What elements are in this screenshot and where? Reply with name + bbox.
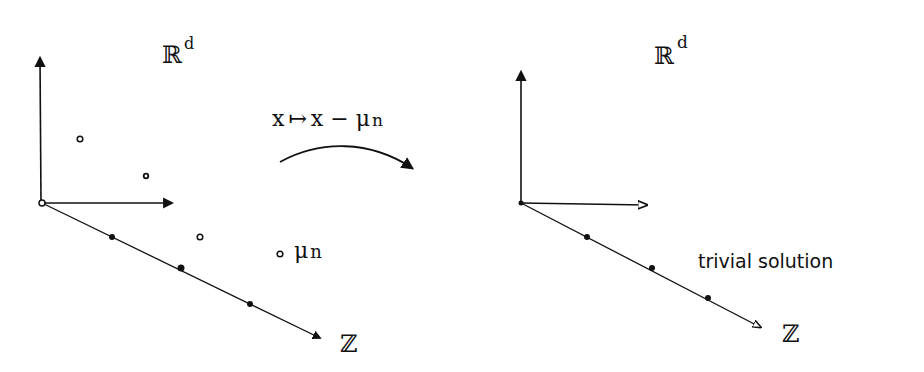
right-horizontal-axis — [521, 203, 646, 205]
transform: x↦x − μn — [272, 106, 412, 168]
lattice-dot — [649, 265, 655, 271]
lattice-dot — [705, 295, 711, 301]
right-origin-dot — [519, 201, 524, 206]
transform-label: x↦x − μn — [272, 106, 383, 131]
lattice-dot — [109, 234, 115, 240]
mean-point — [277, 251, 283, 257]
mean-label: μn — [294, 238, 322, 263]
data-point — [77, 136, 83, 142]
trivial-solution-caption: trivial solution — [698, 250, 833, 272]
data-point — [144, 174, 149, 179]
data-point — [197, 234, 203, 240]
left-origin-dot — [39, 200, 45, 206]
left-panel: ℝd μn ℤ — [39, 34, 358, 358]
diagram-canvas: ℝd μn ℤ x↦x − μn ℝd trivial solution ℤ — [0, 0, 924, 372]
left-z-label: ℤ — [340, 330, 358, 358]
right-panel: ℝd trivial solution ℤ — [519, 32, 834, 348]
lattice-dot — [247, 301, 253, 307]
right-z-label: ℤ — [782, 320, 800, 348]
right-space-label: ℝd — [654, 32, 688, 70]
transform-arrow — [280, 146, 412, 168]
lattice-dot — [178, 265, 185, 272]
left-vertical-axis — [40, 58, 41, 203]
lattice-dot — [584, 234, 590, 240]
left-space-label: ℝd — [162, 34, 194, 69]
